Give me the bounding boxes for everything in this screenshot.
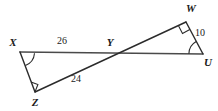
vertex-label-X: X xyxy=(8,36,17,48)
segment-XU xyxy=(20,52,203,54)
vertex-label-U: U xyxy=(204,56,213,68)
vertex-label-Y: Y xyxy=(107,36,115,48)
vertex-label-Z: Z xyxy=(31,96,39,108)
segment-ZW xyxy=(35,22,186,92)
measure-label-WU: 10 xyxy=(195,27,205,38)
geometry-canvas: X Y Z W U 26 24 10 xyxy=(0,0,218,111)
segment-XZ xyxy=(20,52,35,92)
angle-arc-U-icon xyxy=(189,41,196,53)
angle-arc-X-icon xyxy=(25,53,34,65)
geometry-diagram: X Y Z W U 26 24 10 xyxy=(0,0,218,111)
measure-label-ZY: 24 xyxy=(71,73,81,84)
vertex-label-W: W xyxy=(186,2,197,14)
measure-label-XY: 26 xyxy=(57,35,67,46)
